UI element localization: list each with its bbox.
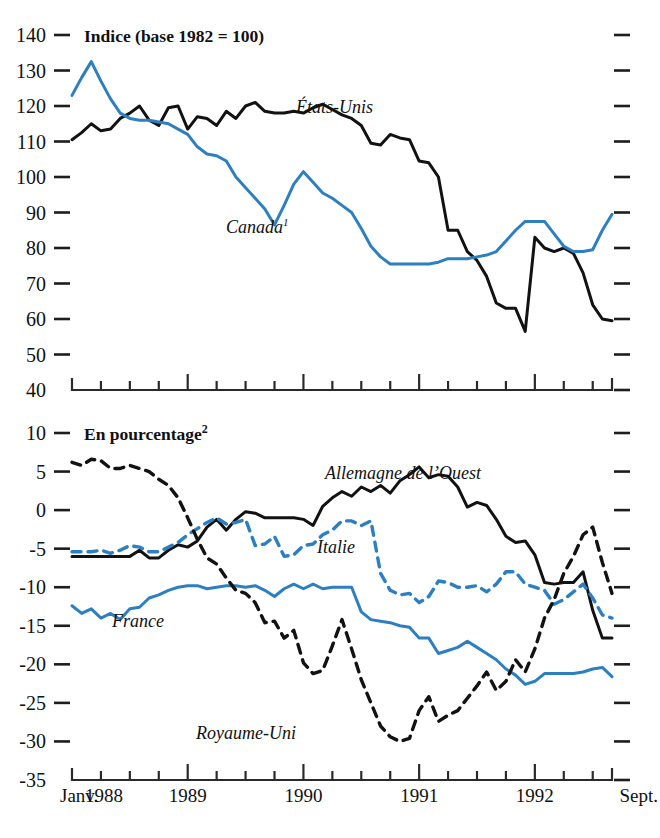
y-tick-label: 130	[16, 60, 46, 82]
y-tick-label: 0	[36, 499, 46, 521]
y-tick-label: -10	[19, 576, 46, 598]
series-label-france: France	[111, 611, 164, 631]
x-axis-year-label: 1991	[400, 785, 438, 806]
chart-bottom-svg: 1050-5-10-15-20-25-30-35En pourcentage2A…	[0, 414, 660, 838]
y-tick-label: -20	[19, 653, 46, 675]
series-label-italie: Italie	[316, 537, 355, 557]
y-tick-label: 5	[36, 461, 46, 483]
series-label-superscript: 1	[283, 216, 289, 228]
series-line	[72, 518, 612, 618]
x-axis-year-label: 1990	[284, 785, 322, 806]
series-label-canada: Canada1	[226, 216, 289, 237]
y-tick-label: 140	[16, 24, 46, 46]
chart-top-svg: 140130120110100908070605040Indice (base …	[0, 0, 660, 414]
y-tick-label: -25	[19, 692, 46, 714]
y-tick-label: 40	[26, 379, 46, 401]
panel-title: En pourcentage2	[84, 422, 208, 444]
x-axis-year-label: 1992	[516, 785, 554, 806]
series-label-allemagne-de-l-ouest: Allemagne de l’Ouest	[324, 463, 482, 483]
series-line	[72, 459, 612, 741]
series-line	[72, 584, 612, 684]
y-tick-label: -35	[19, 769, 46, 791]
panel-top: 140130120110100908070605040Indice (base …	[0, 0, 660, 414]
series-line	[72, 102, 612, 331]
x-axis-line	[72, 379, 612, 390]
y-tick-label: 70	[26, 273, 46, 295]
y-tick-label: 100	[16, 166, 46, 188]
figure-root: 140130120110100908070605040Indice (base …	[0, 0, 660, 838]
y-tick-label: 50	[26, 344, 46, 366]
series-label-etats-unis: États-Unis	[295, 96, 373, 117]
y-tick-label: 10	[26, 422, 46, 444]
panel-title: Indice (base 1982 = 100)	[84, 26, 264, 46]
y-tick-label: 60	[26, 308, 46, 330]
series-label-royaume-uni: Royaume-Uni	[195, 723, 296, 743]
panel-title-superscript: 2	[202, 422, 208, 436]
y-tick-label: -5	[29, 538, 46, 560]
x-axis-end-label: Sept.	[619, 785, 658, 806]
y-tick-label: -15	[19, 615, 46, 637]
y-tick-label: 90	[26, 202, 46, 224]
x-axis-year-label: 1989	[169, 785, 207, 806]
panel-bottom: 1050-5-10-15-20-25-30-35En pourcentage2A…	[0, 414, 660, 838]
y-tick-label: -30	[19, 730, 46, 752]
y-tick-label: 80	[26, 237, 46, 259]
y-tick-label: 120	[16, 95, 46, 117]
x-axis-line	[72, 769, 612, 780]
x-axis-year-label: 1988	[85, 785, 123, 806]
series-line	[72, 62, 612, 264]
y-tick-label: 110	[17, 131, 46, 153]
